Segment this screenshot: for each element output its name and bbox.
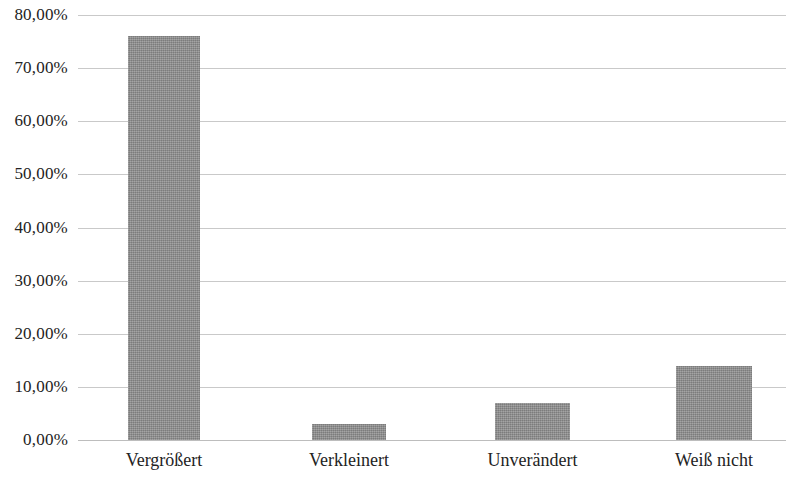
- x-axis-tick-label: Unverändert: [443, 448, 623, 472]
- y-axis-tick-label: 10,00%: [0, 378, 68, 395]
- y-axis-tick-label: 0,00%: [0, 431, 68, 448]
- gridline: [78, 15, 786, 16]
- gridline: [78, 440, 786, 441]
- x-axis-tick-label: Verkleinert: [259, 448, 439, 472]
- bar: [312, 424, 386, 440]
- bar: [495, 403, 570, 440]
- bar: [676, 366, 752, 440]
- x-axis-tick-label: Weiß nicht: [624, 448, 796, 472]
- bar: [128, 36, 200, 440]
- y-axis: 80,00%70,00%60,00%50,00%40,00%30,00%20,0…: [0, 0, 70, 477]
- y-axis-tick-label: 80,00%: [0, 6, 68, 23]
- bar-chart-figure: 80,00%70,00%60,00%50,00%40,00%30,00%20,0…: [0, 0, 796, 477]
- x-axis-tick-label: Vergrößert: [74, 448, 254, 472]
- y-axis-tick-label: 20,00%: [0, 325, 68, 342]
- plot-area: [78, 15, 786, 440]
- y-axis-tick-label: 60,00%: [0, 112, 68, 129]
- x-axis: VergrößertVerkleinertUnverändertWeiß nic…: [0, 448, 796, 477]
- y-axis-tick-label: 50,00%: [0, 165, 68, 182]
- y-axis-tick-label: 30,00%: [0, 272, 68, 289]
- y-axis-tick-label: 40,00%: [0, 219, 68, 236]
- y-axis-tick-label: 70,00%: [0, 59, 68, 76]
